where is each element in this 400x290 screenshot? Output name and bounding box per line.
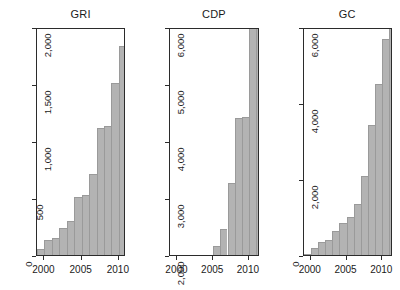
- plot-area-gc: [303, 28, 392, 256]
- y-tick: [165, 142, 169, 143]
- bar: [382, 39, 389, 255]
- bar: [67, 221, 74, 255]
- bar: [37, 249, 44, 255]
- x-tick: [43, 256, 44, 260]
- y-tick: [299, 28, 303, 29]
- x-tick: [381, 256, 382, 260]
- y-tick: [32, 142, 36, 143]
- panel-title-cdp: CDP: [169, 8, 258, 20]
- bar: [111, 83, 118, 255]
- bar: [213, 246, 220, 255]
- bar: [52, 238, 59, 255]
- bar-series-gc: [304, 29, 391, 255]
- bar: [256, 28, 259, 255]
- x-tick-label: 2000: [32, 264, 54, 275]
- y-tick-label: 4,000: [175, 148, 186, 172]
- x-tick: [310, 256, 311, 260]
- y-tick-label: 1,500: [42, 91, 53, 115]
- x-tick: [212, 256, 213, 260]
- x-tick: [176, 256, 177, 260]
- x-tick-label: 2010: [237, 264, 259, 275]
- bar: [82, 195, 89, 255]
- x-tick-label: 2005: [70, 264, 92, 275]
- x-tick-label: 2010: [370, 264, 392, 275]
- bar: [249, 28, 256, 255]
- bar: [220, 229, 227, 255]
- bar: [368, 125, 375, 255]
- bar: [318, 242, 325, 255]
- y-tick-label: 2,000: [42, 34, 53, 58]
- panel-title-gri: GRI: [36, 8, 125, 20]
- bar: [347, 217, 354, 255]
- x-tick: [248, 256, 249, 260]
- y-tick: [165, 256, 169, 257]
- x-tick-label: 2005: [334, 264, 356, 275]
- y-tick-label: 6,000: [308, 34, 319, 58]
- y-tick: [32, 28, 36, 29]
- x-tick-label: 2010: [107, 264, 129, 275]
- y-tick-label: 1,000: [42, 148, 53, 172]
- bar: [59, 228, 66, 255]
- plot-area-gri: [36, 28, 125, 256]
- y-tick-label: 6,000: [175, 34, 186, 58]
- bar: [119, 46, 125, 255]
- panel-gc: GC02,0004,0006,000200020052010: [267, 0, 400, 290]
- bar: [311, 248, 318, 255]
- y-tick: [165, 199, 169, 200]
- y-tick-label: 3,000: [175, 205, 186, 229]
- y-tick-label: 500: [34, 205, 45, 221]
- x-tick-label: 2000: [299, 264, 321, 275]
- bar: [339, 223, 346, 255]
- bar: [104, 126, 111, 255]
- y-tick: [165, 28, 169, 29]
- panel-gri: GRI05001,0001,5002,000200020052010: [0, 0, 133, 290]
- y-tick: [165, 85, 169, 86]
- bar: [97, 128, 104, 255]
- panel-cdp: CDP2,0003,0004,0005,0006,000200020052010: [133, 0, 266, 290]
- x-tick: [346, 256, 347, 260]
- bar: [389, 28, 392, 255]
- x-tick-label: 2005: [201, 264, 223, 275]
- panel-title-gc: GC: [303, 8, 392, 20]
- y-tick-label: 5,000: [175, 91, 186, 115]
- y-tick: [32, 256, 36, 257]
- bar: [375, 84, 382, 255]
- bar: [325, 240, 332, 255]
- y-tick: [32, 85, 36, 86]
- bar: [44, 240, 51, 255]
- bar: [74, 197, 81, 255]
- y-tick-label: 2,000: [308, 186, 319, 210]
- bar: [304, 254, 311, 255]
- bar: [242, 117, 249, 255]
- y-tick-label: 4,000: [308, 110, 319, 134]
- x-tick: [118, 256, 119, 260]
- y-tick: [299, 180, 303, 181]
- bar: [89, 174, 96, 255]
- y-tick: [299, 104, 303, 105]
- bar: [228, 183, 235, 255]
- bar: [235, 118, 242, 255]
- bar: [354, 204, 361, 255]
- x-tick-label: 2000: [165, 264, 187, 275]
- three-panel-histogram-figure: GRI05001,0001,5002,000200020052010 CDP2,…: [0, 0, 400, 290]
- bar: [332, 231, 339, 255]
- y-tick: [299, 256, 303, 257]
- y-tick: [32, 199, 36, 200]
- x-tick: [81, 256, 82, 260]
- bar-series-gri: [37, 29, 124, 255]
- bar: [361, 176, 368, 255]
